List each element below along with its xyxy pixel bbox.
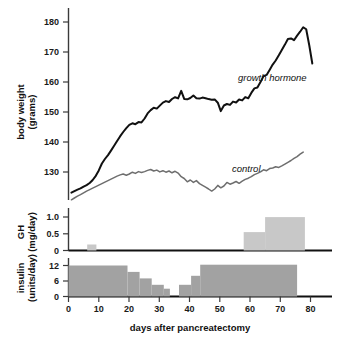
weight-ytick-130: 130 (44, 167, 59, 177)
insulin-bar-1 (69, 266, 128, 297)
insulin-ytick-6: 6 (54, 276, 59, 286)
weight-ytick-170: 170 (44, 47, 59, 57)
gh-bar-mid (244, 232, 265, 250)
xtick-0: 0 (66, 304, 71, 314)
xtick-40: 40 (184, 304, 194, 314)
xtick-70: 70 (275, 304, 285, 314)
weight-ytick-150: 150 (44, 107, 59, 117)
weight-y-ticks (63, 22, 69, 172)
weight-ytick-140: 140 (44, 137, 59, 147)
insulin-y-ticks (63, 266, 69, 297)
gh-ytick-0: 0 (54, 246, 59, 256)
insulin-bar-8 (200, 265, 297, 297)
weight-y-axis-title-line1: body weight (15, 83, 26, 139)
gh-y-axis-title-line2: (mg/day) (26, 212, 37, 252)
insulin-bar-3 (140, 278, 152, 296)
panel-body-weight: 180 170 160 150 140 130 body weight (gra… (15, 8, 312, 200)
insulin-bar-2 (128, 272, 140, 297)
xtick-50: 50 (215, 304, 225, 314)
gh-bar-early (87, 245, 96, 251)
insulin-bar-7 (191, 276, 200, 297)
gh-bar-late (265, 217, 305, 250)
annotation-control: control (232, 163, 261, 174)
weight-y-axis-title-line2: (grams) (26, 95, 37, 130)
gh-y-axis-title-line1: GH (15, 225, 26, 239)
panel-insulin-dose: 12 6 0 insulin (units/day) (15, 254, 332, 333)
insulin-bar-5 (164, 289, 170, 297)
xtick-20: 20 (124, 304, 134, 314)
figure-root: 180 170 160 150 140 130 body weight (gra… (0, 0, 340, 339)
insulin-ytick-12: 12 (49, 261, 59, 271)
panel-gh-dose: 1.0 0.5 0 GH (mg/day) (15, 208, 332, 256)
insulin-ytick-0: 0 (54, 292, 59, 302)
weight-ytick-180: 180 (44, 17, 59, 27)
gh-y-ticks (63, 217, 69, 251)
chart-svg: 180 170 160 150 140 130 body weight (gra… (0, 0, 340, 339)
xtick-80: 80 (305, 304, 315, 314)
insulin-bar-6 (179, 285, 191, 297)
insulin-y-axis-title-line1: insulin (15, 263, 26, 294)
series-control (71, 152, 303, 200)
series-growth-hormone (71, 27, 312, 192)
annotation-growth-hormone: growth hormone (238, 72, 307, 83)
xtick-10: 10 (94, 304, 104, 314)
gh-bars (87, 217, 305, 250)
weight-ytick-160: 160 (44, 77, 59, 87)
insulin-y-axis-title-line2: (units/day) (26, 254, 37, 302)
gh-ytick-0.5: 0.5 (46, 229, 59, 239)
x-axis-title: days after pancreatectomy (130, 322, 251, 333)
xtick-60: 60 (245, 304, 255, 314)
insulin-bars (69, 265, 298, 297)
xtick-30: 30 (154, 304, 164, 314)
gh-ytick-1.0: 1.0 (46, 212, 59, 222)
insulin-bar-4 (152, 285, 164, 297)
